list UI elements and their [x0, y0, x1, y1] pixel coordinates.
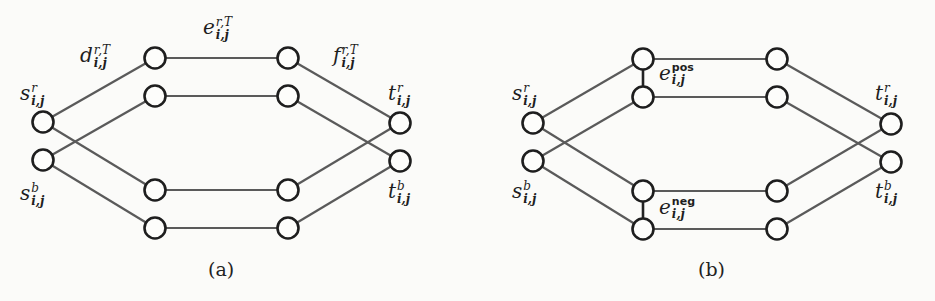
node-t_b [390, 151, 411, 172]
node-r1 [278, 48, 299, 69]
node-r2 [278, 86, 299, 107]
node-s_b [33, 150, 54, 171]
label-e-a: er,Ti,j [203, 16, 232, 41]
node-l1 [145, 48, 166, 69]
label-t-b-b: tbi,j [875, 180, 897, 205]
graph-diagram [0, 0, 935, 301]
node-s_r [523, 113, 544, 134]
node-l3 [633, 181, 654, 202]
label-t-r-b: tri,j [875, 82, 897, 107]
edge-s_b-l2 [533, 97, 643, 161]
label-t-b-a: tbi,j [388, 180, 410, 205]
edge-r4-t_b [288, 161, 400, 228]
node-r2 [767, 87, 788, 108]
label-s-b-a: sbi,j [20, 182, 44, 207]
node-l2 [633, 87, 654, 108]
node-l1 [633, 49, 654, 70]
node-s_r [33, 112, 54, 133]
edge-r2-t_b [288, 96, 400, 161]
node-s_b [523, 151, 544, 172]
label-f-a: fr,Ti,j [333, 44, 358, 69]
edge-s_r-l3 [43, 122, 155, 190]
node-l2 [145, 86, 166, 107]
node-r1 [767, 49, 788, 70]
edge-s_b-l2 [43, 96, 155, 160]
node-r3 [767, 181, 788, 202]
panel-b-edges [533, 59, 891, 229]
label-d-a: dr,Ti,j [80, 44, 110, 69]
label-e-neg-b: enegi,j [659, 196, 695, 220]
label-t-r-a: tri,j [388, 82, 410, 107]
edge-r3-t_r [288, 123, 400, 190]
panel-b-nodes [523, 49, 902, 240]
node-r4 [767, 219, 788, 240]
panel-a-nodes [33, 48, 411, 239]
panel-a-edges [43, 58, 400, 228]
label-s-r-a: sri,j [20, 82, 44, 107]
edge-r4-t_b [777, 162, 891, 229]
node-t_r [390, 113, 411, 134]
edge-s_r-l3 [533, 123, 643, 191]
node-r3 [278, 180, 299, 201]
edge-r3-t_r [777, 124, 891, 191]
node-r4 [278, 218, 299, 239]
edge-s_b-l4 [533, 161, 643, 229]
label-s-b-b: sbi,j [512, 180, 536, 205]
label-s-r-b: sri,j [512, 82, 536, 107]
edge-r2-t_b [777, 97, 891, 162]
label-e-pos-b: eposi,j [659, 62, 694, 86]
edge-s_r-l1 [533, 59, 643, 123]
node-l3 [145, 180, 166, 201]
node-l4 [145, 218, 166, 239]
edge-r1-t_r [777, 59, 891, 124]
node-t_r [881, 114, 902, 135]
edge-s_b-l4 [43, 160, 155, 228]
caption-b: (b) [698, 258, 725, 280]
caption-a: (a) [208, 258, 234, 280]
node-t_b [881, 152, 902, 173]
node-l4 [633, 219, 654, 240]
